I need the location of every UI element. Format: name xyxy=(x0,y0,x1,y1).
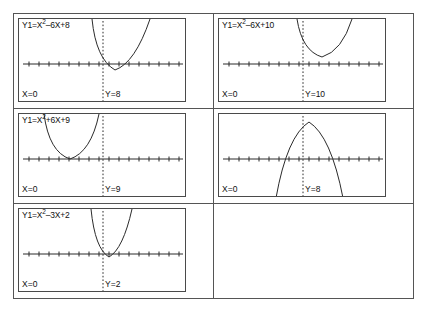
table-cell-screen-2: Y1=X2–6X+10 X=0 Y=10 xyxy=(214,14,414,109)
equation-label-1: Y1=X2–6X+8 xyxy=(22,20,69,30)
graph-canvas-5 xyxy=(19,209,186,292)
trace-x-readout-2: X=0 xyxy=(222,89,237,99)
trace-y-readout-1: Y=8 xyxy=(105,89,120,99)
equation-label-3: Y1=X2+6X+9 xyxy=(22,115,70,125)
table-row: Y1=X2–3X+2 X=0 Y=2 xyxy=(14,204,414,299)
trace-y-readout-2: Y=10 xyxy=(305,89,325,99)
table-cell-screen-4: X=0 Y=8 xyxy=(214,109,414,204)
trace-y-readout-5: Y=2 xyxy=(105,279,120,289)
parabola-curve xyxy=(92,19,150,70)
trace-x-readout-5: X=0 xyxy=(22,279,37,289)
parabola-curve xyxy=(91,209,132,257)
calculator-screen-3[interactable]: Y1=X2+6X+9 X=0 Y=9 xyxy=(18,113,186,197)
calculator-screen-5[interactable]: Y1=X2–3X+2 X=0 Y=2 xyxy=(18,208,186,292)
parabola-curve xyxy=(297,19,352,57)
calculator-screen-2[interactable]: Y1=X2–6X+10 X=0 Y=10 xyxy=(218,18,386,102)
empty-cell-content xyxy=(214,204,413,298)
trace-x-readout-3: X=0 xyxy=(22,184,37,194)
table-cell-screen-5: Y1=X2–3X+2 X=0 Y=2 xyxy=(14,204,214,299)
table-cell-screen-3: Y1=X2+6X+9 X=0 Y=9 xyxy=(14,109,214,204)
calculator-screen-1[interactable]: Y1=X2–6X+8 X=0 Y=8 xyxy=(18,18,186,102)
table-cell-empty xyxy=(214,204,414,299)
graph-canvas-2 xyxy=(219,19,386,102)
trace-y-readout-4: Y=8 xyxy=(305,184,320,194)
table-cell-screen-1: Y1=X2–6X+8 X=0 Y=8 xyxy=(14,14,214,109)
graph-canvas-3 xyxy=(19,114,186,197)
trace-x-readout-1: X=0 xyxy=(22,89,37,99)
table-row: Y1=X2–6X+8 X=0 Y=8 xyxy=(14,14,414,109)
calculator-screens-table: Y1=X2–6X+8 X=0 Y=8 xyxy=(13,13,414,299)
equation-label-2: Y1=X2–6X+10 xyxy=(222,20,274,30)
trace-y-readout-3: Y=9 xyxy=(105,184,120,194)
graph-canvas-4 xyxy=(219,114,386,197)
table-row: Y1=X2+6X+9 X=0 Y=9 xyxy=(14,109,414,204)
graph-canvas-1 xyxy=(19,19,186,102)
calculator-screen-4[interactable]: X=0 Y=8 xyxy=(218,113,386,197)
trace-x-readout-4: X=0 xyxy=(222,184,237,194)
equation-label-5: Y1=X2–3X+2 xyxy=(22,210,69,220)
